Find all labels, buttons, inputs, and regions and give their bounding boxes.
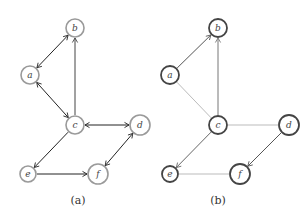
edge-c-b — [215, 38, 220, 115]
edge-c-e — [176, 132, 211, 167]
node-c: c — [209, 116, 227, 134]
edge-c-e — [34, 132, 68, 167]
node-label: c — [72, 120, 77, 130]
node-e: e — [162, 166, 178, 182]
node-label: c — [215, 120, 220, 130]
edge-a-c — [177, 82, 211, 118]
edge-d-f — [105, 133, 133, 165]
node-label: e — [167, 169, 172, 179]
node-label: d — [137, 120, 143, 130]
graph-panel-a: bacdef(a) — [20, 19, 150, 207]
node-d: d — [130, 115, 150, 135]
node-f: f — [88, 164, 108, 184]
edge-c-d — [85, 122, 129, 127]
node-label: a — [167, 70, 172, 80]
node-label: b — [72, 23, 78, 33]
edge-d-f — [248, 133, 281, 166]
node-b: b — [66, 19, 84, 37]
node-a: a — [161, 66, 179, 84]
node-a: a — [21, 66, 39, 84]
node-c: c — [66, 116, 84, 134]
node-label: a — [27, 70, 32, 80]
node-label: d — [286, 120, 292, 130]
graph-diagram: bacdef(a)bacdef(b) — [0, 0, 307, 220]
edge-a-b — [177, 35, 211, 68]
figure-caption: (b) — [210, 194, 226, 207]
figure-caption: (a) — [70, 194, 85, 207]
node-e: e — [20, 166, 36, 182]
node-label: b — [215, 23, 221, 33]
edge-a-c — [37, 82, 69, 117]
node-label: e — [25, 169, 30, 179]
node-b: b — [209, 19, 227, 37]
edge-a-b — [37, 35, 68, 68]
node-d: d — [279, 115, 299, 135]
graph-panel-b: bacdef(b) — [161, 19, 299, 207]
edge-c-b — [72, 38, 77, 115]
node-f: f — [230, 164, 250, 184]
edge-e-f — [37, 171, 87, 176]
